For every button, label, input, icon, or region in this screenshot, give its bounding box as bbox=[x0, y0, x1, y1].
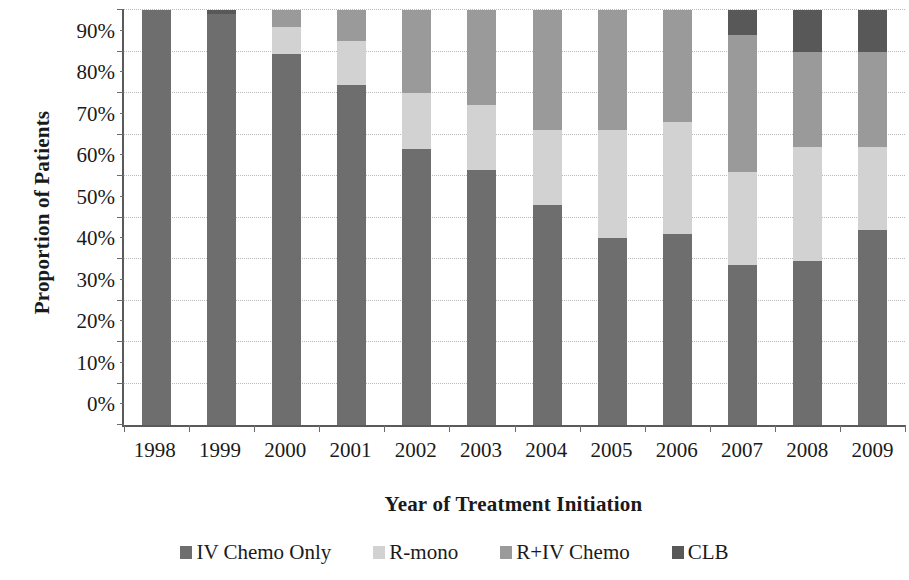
bar-slot-2005 bbox=[580, 10, 645, 425]
bar-segment[interactable] bbox=[728, 35, 757, 172]
bar-segment[interactable] bbox=[793, 52, 822, 147]
y-axis-tick bbox=[117, 383, 124, 384]
stacked-bar[interactable] bbox=[663, 10, 692, 425]
bar-segment[interactable] bbox=[142, 10, 171, 425]
y-axis-tick-label: 20% bbox=[77, 311, 116, 332]
y-axis-tick bbox=[117, 258, 124, 259]
bar-slot-1999 bbox=[189, 10, 254, 425]
bar-segment[interactable] bbox=[598, 130, 627, 238]
y-axis-tick-label: 60% bbox=[77, 145, 116, 166]
y-axis-tick-label: 10% bbox=[77, 352, 116, 373]
bar-segment[interactable] bbox=[598, 10, 627, 130]
bar-segment[interactable] bbox=[858, 147, 887, 230]
bar-segment[interactable] bbox=[272, 54, 301, 425]
stacked-bar[interactable] bbox=[142, 10, 171, 425]
bar-segment[interactable] bbox=[728, 265, 757, 425]
stacked-bar[interactable] bbox=[858, 10, 887, 425]
legend-item[interactable]: R-mono bbox=[373, 542, 458, 563]
x-axis-tick-label: 2000 bbox=[253, 440, 318, 461]
bar-segment[interactable] bbox=[793, 147, 822, 261]
bar-segment[interactable] bbox=[793, 10, 822, 52]
bar-slot-2007 bbox=[710, 10, 775, 425]
y-axis-tick-label: 30% bbox=[77, 269, 116, 290]
y-axis-tick bbox=[117, 175, 124, 176]
bar-slot-2001 bbox=[319, 10, 384, 425]
bar-segment[interactable] bbox=[858, 230, 887, 425]
x-axis-tick bbox=[840, 425, 841, 432]
x-axis-title: Year of Treatment Initiation bbox=[122, 492, 905, 517]
x-axis-tick-label: 2008 bbox=[775, 440, 840, 461]
bar-segment[interactable] bbox=[663, 122, 692, 234]
bar-segment[interactable] bbox=[533, 10, 562, 130]
legend-item[interactable]: CLB bbox=[672, 542, 729, 563]
x-axis-tick bbox=[384, 425, 385, 432]
bar-segment[interactable] bbox=[533, 130, 562, 205]
y-axis-tick-label: 80% bbox=[77, 62, 116, 83]
bar-segment[interactable] bbox=[337, 41, 366, 85]
x-axis-tick bbox=[515, 425, 516, 432]
x-axis-tick-labels: 1998199920002001200220032004200520062007… bbox=[122, 440, 905, 461]
bar-segment[interactable] bbox=[402, 93, 431, 149]
legend-item[interactable]: R+IV Chemo bbox=[500, 542, 630, 563]
x-axis-tick-label: 1999 bbox=[187, 440, 252, 461]
legend-swatch-icon bbox=[500, 546, 512, 559]
y-axis-tick-label: 0% bbox=[87, 394, 115, 415]
bar-segment[interactable] bbox=[663, 10, 692, 122]
bar-slot-2009 bbox=[840, 10, 905, 425]
bar-segment[interactable] bbox=[272, 27, 301, 54]
stacked-bar[interactable] bbox=[533, 10, 562, 425]
x-axis-tick-label: 2001 bbox=[318, 440, 383, 461]
bar-segment[interactable] bbox=[337, 85, 366, 425]
legend-item[interactable]: IV Chemo Only bbox=[180, 542, 331, 563]
stacked-bar[interactable] bbox=[598, 10, 627, 425]
bar-segment[interactable] bbox=[207, 14, 236, 425]
stacked-bar[interactable] bbox=[793, 10, 822, 425]
bar-segment[interactable] bbox=[337, 10, 366, 41]
bar-slot-2004 bbox=[514, 10, 579, 425]
bar-segment[interactable] bbox=[793, 261, 822, 425]
bar-segment[interactable] bbox=[598, 238, 627, 425]
y-axis-tick bbox=[117, 217, 124, 218]
bar-segment[interactable] bbox=[467, 10, 496, 105]
plot-area: 0%10%20%30%40%50%60%70%80%90%100% bbox=[122, 10, 905, 427]
y-axis-tick bbox=[117, 92, 124, 93]
x-axis-tick bbox=[710, 425, 711, 432]
bar-slot-1998 bbox=[124, 10, 189, 425]
bar-segment[interactable] bbox=[728, 172, 757, 265]
chart-legend: IV Chemo OnlyR-monoR+IV ChemoCLB bbox=[0, 542, 909, 563]
bar-slot-2000 bbox=[254, 10, 319, 425]
x-axis-tick-label: 2005 bbox=[579, 440, 644, 461]
bar-slot-2008 bbox=[775, 10, 840, 425]
legend-swatch-icon bbox=[180, 546, 192, 559]
bar-segment[interactable] bbox=[272, 10, 301, 27]
bar-segment[interactable] bbox=[402, 10, 431, 93]
bar-segment[interactable] bbox=[402, 149, 431, 425]
x-axis-tick bbox=[319, 425, 320, 432]
x-axis-tick-label: 2003 bbox=[448, 440, 513, 461]
x-axis-tick bbox=[645, 425, 646, 432]
bar-segment[interactable] bbox=[663, 234, 692, 425]
x-axis-tick bbox=[775, 425, 776, 432]
bar-slot-2003 bbox=[449, 10, 514, 425]
stacked-bar-chart: Proportion of Patients 0%10%20%30%40%50%… bbox=[0, 0, 909, 580]
bar-segment[interactable] bbox=[533, 205, 562, 425]
stacked-bar[interactable] bbox=[337, 10, 366, 425]
stacked-bar[interactable] bbox=[728, 10, 757, 425]
bar-group bbox=[124, 10, 905, 425]
stacked-bar[interactable] bbox=[402, 10, 431, 425]
x-axis-tick bbox=[124, 425, 125, 432]
bar-segment[interactable] bbox=[858, 10, 887, 52]
bar-segment[interactable] bbox=[728, 10, 757, 35]
bar-segment[interactable] bbox=[858, 52, 887, 147]
x-axis-tick-label: 2007 bbox=[709, 440, 774, 461]
bar-segment[interactable] bbox=[467, 170, 496, 425]
legend-label: R+IV Chemo bbox=[516, 542, 630, 563]
bar-segment[interactable] bbox=[467, 105, 496, 169]
stacked-bar[interactable] bbox=[467, 10, 496, 425]
stacked-bar[interactable] bbox=[272, 10, 301, 425]
y-axis-tick-label: 90% bbox=[77, 20, 116, 41]
y-axis-tick-label: 70% bbox=[77, 103, 116, 124]
legend-label: IV Chemo Only bbox=[196, 542, 331, 563]
x-axis-tick bbox=[449, 425, 450, 432]
stacked-bar[interactable] bbox=[207, 10, 236, 425]
